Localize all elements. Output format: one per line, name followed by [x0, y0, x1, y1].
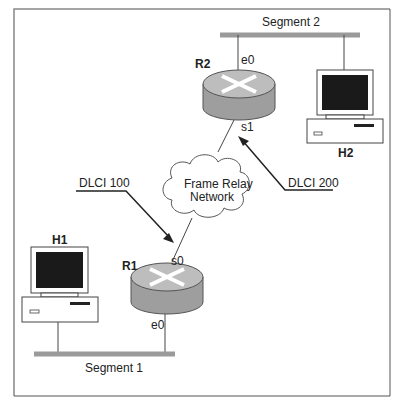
- host-h1-label: H1: [52, 233, 68, 247]
- monitor-base: [326, 115, 364, 119]
- power-button: [314, 132, 322, 135]
- drive-slot: [354, 124, 374, 127]
- r1-e0-label: e0: [151, 318, 165, 332]
- dlci-100-label: DLCI 100: [79, 176, 130, 190]
- router-r2-label: R2: [195, 57, 211, 71]
- pc-case: [307, 119, 383, 143]
- host-h2: [307, 70, 383, 143]
- r2-e0-label: e0: [241, 53, 255, 67]
- drive-slot: [70, 302, 90, 305]
- segment-1-label: Segment 1: [85, 361, 143, 375]
- network-diagram: Segment 2 R2 e0 s1 H2 Frame Relay Networ…: [0, 0, 399, 406]
- r2-cloud-link: [218, 120, 234, 152]
- host-h2-label: H2: [338, 146, 354, 160]
- r2-s1-label: s1: [241, 120, 254, 134]
- power-button: [30, 310, 39, 313]
- router-r1: [131, 263, 203, 314]
- dlci-100-arrowhead-icon: [163, 233, 174, 243]
- host-h1: [22, 247, 98, 322]
- screen: [36, 252, 83, 288]
- monitor-base: [41, 293, 78, 297]
- router-r1-label: R1: [122, 259, 138, 273]
- dlci-200-label: DLCI 200: [288, 176, 339, 190]
- r1-s0-label: s0: [171, 254, 184, 268]
- cloud-label-line1: Frame Relay: [184, 177, 253, 191]
- router-r2: [203, 70, 275, 120]
- segment-2-label: Segment 2: [262, 15, 320, 29]
- screen: [322, 75, 368, 110]
- pc-case: [22, 297, 98, 322]
- cloud-label-line2: Network: [190, 190, 235, 204]
- dlci-100-arrow: [76, 191, 170, 238]
- dlci-200-arrowhead-icon: [238, 136, 249, 146]
